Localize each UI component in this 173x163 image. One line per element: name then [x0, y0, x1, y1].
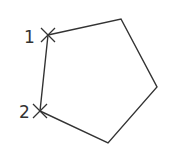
point-1-label: 1: [24, 27, 35, 47]
pentagon-shape: [40, 19, 157, 143]
point-2-label: 2: [19, 102, 30, 122]
pentagon-diagram: 1 2: [0, 0, 173, 163]
point-1-marker: 1: [24, 27, 55, 47]
